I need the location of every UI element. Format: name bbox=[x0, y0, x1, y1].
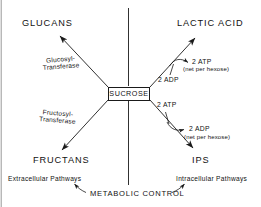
curve-lactic-atp-output bbox=[170, 59, 189, 66]
pathway-label-intracellular: Intracellular Pathways bbox=[176, 175, 247, 182]
node-label-glucans: GLUCANS bbox=[22, 18, 73, 28]
leader-control-to-extracellular bbox=[75, 184, 87, 193]
node-label-lactic-acid: LACTIC ACID bbox=[177, 18, 244, 28]
cofactor-label-lactic-adp-in: 2 ADP bbox=[158, 76, 179, 84]
enzyme-label-fructosyl-transferase: Fructosyl- Transferase bbox=[39, 108, 77, 125]
node-label-ips: IPS bbox=[192, 155, 210, 165]
cofactor-label-ips-adp-out: 2 ADP bbox=[189, 125, 210, 133]
pathway-label-extracellular: Extracellular Pathways bbox=[8, 175, 81, 182]
cofactor-label-ips-atp-in: 2 ATP bbox=[157, 101, 177, 109]
metabolic-pathway-diagram: GLUCANS LACTIC ACID FRUCTANS IPS SUCROSE… bbox=[0, 0, 261, 207]
cofactor-note-lactic-atp: (net per hexose) bbox=[183, 66, 229, 73]
node-label-fructans: FRUCTANS bbox=[33, 155, 90, 165]
tick-lactic-adp-input bbox=[170, 64, 174, 75]
arrow-sucrose-to-fructans bbox=[62, 100, 108, 150]
metabolic-control-caption: METABOLIC CONTROL bbox=[90, 190, 184, 199]
enzyme-label-glucosyl-transferase: Glucosyl- Transferase bbox=[42, 54, 80, 71]
cofactor-label-lactic-atp-out: 2 ATP bbox=[192, 58, 212, 66]
hub-node-label: SUCROSE bbox=[109, 89, 148, 98]
cofactor-note-ips-adp: (net per hexose) bbox=[184, 134, 230, 141]
hub-node-sucrose: SUCROSE bbox=[108, 87, 150, 101]
